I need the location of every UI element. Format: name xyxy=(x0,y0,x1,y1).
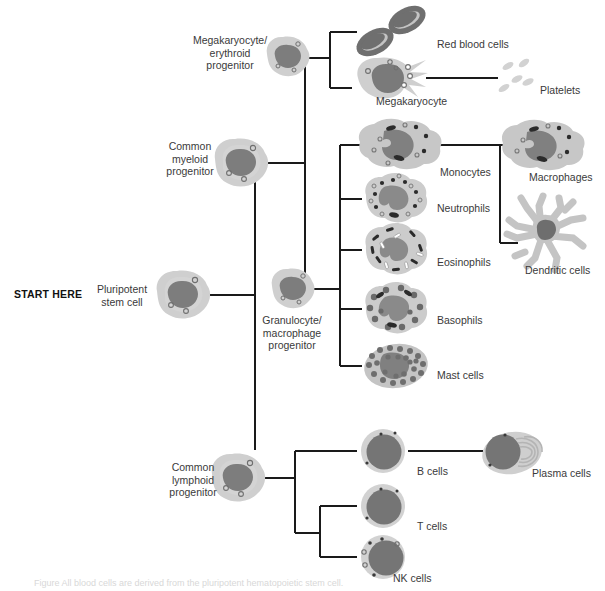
label-monocytes: Monocytes xyxy=(440,166,491,179)
start-here-label: START HERE xyxy=(14,288,82,301)
label-dendritic-cells: Dendritic cells xyxy=(525,264,590,277)
cell-granulocyte-macrophage-progenitor xyxy=(272,269,315,309)
hematopoiesis-figure: START HERE Pluripotent stem cell Common … xyxy=(0,0,605,591)
label-macrophages: Macrophages xyxy=(529,171,593,184)
label-common-lymphoid-progenitor: Common lymphoid progenitor xyxy=(157,461,229,499)
cell-red-blood-cells xyxy=(352,0,431,62)
cell-pluripotent-stem-cell xyxy=(157,271,210,319)
cell-macrophages xyxy=(502,120,585,170)
label-pluripotent-stem-cell: Pluripotent stem cell xyxy=(88,283,156,308)
label-megakaryocyte-erythroid-progenitor: Megakaryocyte/ erythroid progenitor xyxy=(186,34,274,72)
label-platelets: Platelets xyxy=(540,84,580,97)
label-neutrophils: Neutrophils xyxy=(437,202,490,215)
label-basophils: Basophils xyxy=(437,314,483,327)
label-megakaryocyte: Megakaryocyte xyxy=(376,95,447,108)
cell-b-cells xyxy=(361,429,405,473)
label-granulocyte-macrophage-progenitor: Granulocyte/ macrophage progenitor xyxy=(250,314,334,352)
figure-caption: Figure All blood cells are derived from … xyxy=(34,578,579,590)
label-mast-cells: Mast cells xyxy=(437,369,484,382)
cell-neutrophils xyxy=(365,173,427,222)
cell-megakaryocyte xyxy=(357,57,428,98)
cell-monocytes xyxy=(359,119,442,169)
label-red-blood-cells: Red blood cells xyxy=(437,38,509,51)
cell-basophils xyxy=(365,282,427,333)
label-common-myeloid-progenitor: Common myeloid progenitor xyxy=(155,140,225,178)
label-eosinophils: Eosinophils xyxy=(437,256,491,269)
cell-dendritic-cells xyxy=(507,196,583,270)
cell-mast-cells xyxy=(361,340,431,392)
label-plasma-cells: Plasma cells xyxy=(532,467,591,480)
label-t-cells: T cells xyxy=(417,520,447,533)
cell-platelets xyxy=(497,57,534,94)
label-b-cells: B cells xyxy=(417,465,448,478)
cell-t-cells xyxy=(361,484,405,528)
cell-eosinophils xyxy=(365,223,427,274)
